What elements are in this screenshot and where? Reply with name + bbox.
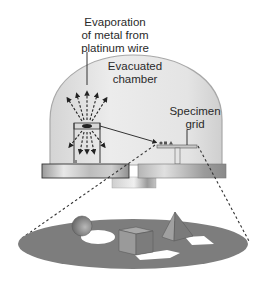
specimen-grid xyxy=(159,141,173,145)
evaporation-label-line-1: Evaporation xyxy=(50,16,180,29)
chamber-label-line-2: chamber xyxy=(100,73,170,86)
sphere xyxy=(72,216,92,236)
specimen-grid-label: Specimen grid xyxy=(160,105,230,131)
specimen-label-line-1: Specimen xyxy=(160,105,230,118)
chamber-label: Evacuated chamber xyxy=(100,60,170,86)
specimen-label-line-2: grid xyxy=(160,118,230,131)
evaporation-label-line-3: platinum wire xyxy=(50,42,180,55)
evaporation-label: Evaporation of metal from platinum wire xyxy=(50,16,180,55)
evaporation-label-line-2: of metal from xyxy=(50,29,180,42)
shadowing-diagram: Evaporation of metal from platinum wire … xyxy=(0,0,266,281)
base-plate xyxy=(42,164,226,188)
chamber-label-line-1: Evacuated xyxy=(100,60,170,73)
cube xyxy=(119,227,153,255)
